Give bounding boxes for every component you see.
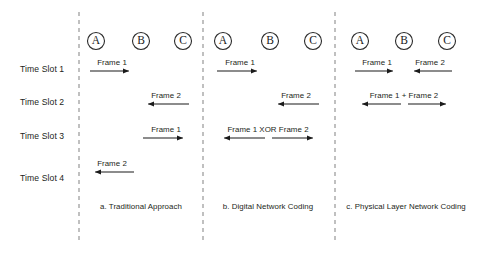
row-label-slot3: Time Slot 3	[20, 131, 64, 141]
panel-c-broadcast-label: Frame 1 + Frame 2	[370, 91, 439, 100]
a-slot3-label: Frame 1	[151, 125, 181, 134]
node-c-label: C	[309, 34, 317, 46]
row-label-slot1: Time Slot 1	[20, 64, 64, 74]
row-label-slot4: Time Slot 4	[20, 173, 64, 183]
node-c-label: C	[443, 34, 451, 46]
c-slot1a-label: Frame 1	[362, 58, 392, 67]
row-label-slot2: Time Slot 2	[20, 97, 64, 107]
a-slot1-label: Frame 1	[97, 58, 127, 67]
b-slot1-label: Frame 1	[225, 58, 255, 67]
node-b-label: B	[400, 34, 408, 46]
a-slot2-label: Frame 2	[151, 91, 181, 100]
network-nodes: ABCABCABC	[88, 33, 456, 50]
c-slot1b-label: Frame 2	[415, 58, 445, 67]
network-coding-diagram: ABCABCABC Frame 1Frame 2Frame 1Frame 2a.…	[0, 0, 478, 257]
panel-b-caption: b. Digital Network Coding	[223, 202, 313, 211]
node-c-label: C	[179, 34, 187, 46]
node-a-label: A	[356, 34, 365, 46]
b-slot2-label: Frame 2	[281, 91, 311, 100]
transmission-arrows	[90, 71, 452, 172]
panel-c-caption: c. Physical Layer Network Coding	[346, 202, 466, 211]
node-a-label: A	[92, 34, 101, 46]
node-b-label: B	[266, 34, 274, 46]
panel-b-broadcast-label: Frame 1 XOR Frame 2	[227, 125, 308, 134]
a-slot4-label: Frame 2	[97, 159, 127, 168]
node-b-label: B	[137, 34, 145, 46]
panel-a-caption: a. Traditional Approach	[100, 202, 182, 211]
node-a-label: A	[219, 34, 228, 46]
